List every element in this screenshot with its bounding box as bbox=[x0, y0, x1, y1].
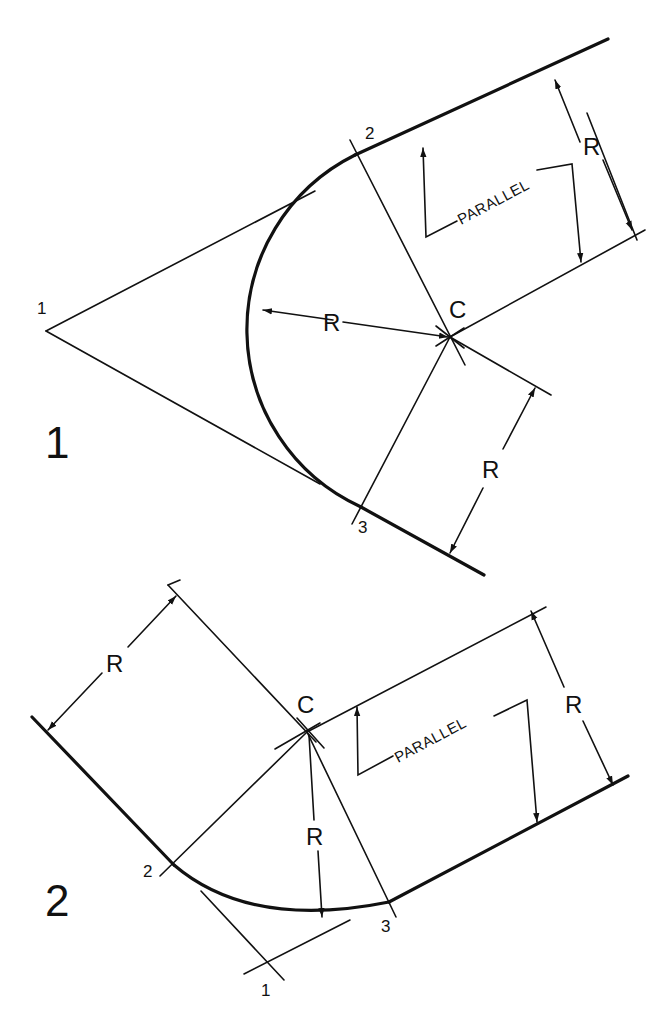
point-label-1: 1 bbox=[261, 981, 270, 1000]
r-dim-arrow-up bbox=[128, 596, 176, 647]
perpendicular-line-2 bbox=[160, 732, 307, 876]
parallel-label: PARALLEL bbox=[454, 176, 532, 228]
point-label-2: 2 bbox=[365, 124, 374, 143]
figure-1: R R PARALLEL R 1 2 3 C 1 bbox=[37, 39, 645, 575]
r-dim-arrow-down bbox=[583, 721, 613, 785]
radius-label: R bbox=[306, 823, 323, 850]
parallel-leader-right bbox=[494, 700, 537, 822]
radius-label: R bbox=[106, 650, 123, 677]
r-dim-arrow-up bbox=[555, 80, 580, 142]
point-label-2: 2 bbox=[143, 862, 152, 881]
right-tangent-line bbox=[389, 776, 628, 902]
figure-number: 2 bbox=[45, 876, 69, 925]
point-label-3: 3 bbox=[358, 518, 367, 537]
lower-angle-line bbox=[46, 331, 320, 484]
radius-arrow-center bbox=[343, 322, 448, 337]
dim-tick bbox=[168, 580, 180, 585]
left-angle-line bbox=[201, 891, 284, 980]
arc-tangent-construction-diagram: R R PARALLEL R 1 2 3 C 1 bbox=[0, 0, 672, 1030]
radius-label: R bbox=[482, 456, 499, 483]
parallel-leader-left bbox=[357, 707, 393, 775]
right-angle-line bbox=[244, 920, 350, 974]
radius-arrow bbox=[318, 851, 322, 917]
radius-label: R bbox=[323, 309, 340, 336]
radius-line bbox=[309, 735, 314, 820]
r-dim-arrow-down bbox=[450, 488, 483, 553]
tangent-arc bbox=[174, 865, 389, 910]
tangent-arc bbox=[247, 155, 361, 507]
parallel-leader-left bbox=[423, 148, 457, 237]
parallel-line-left bbox=[168, 585, 316, 742]
upper-angle-line bbox=[46, 191, 315, 331]
center-label: C bbox=[449, 296, 466, 323]
lower-tangent-line bbox=[361, 507, 484, 575]
center-cross bbox=[436, 326, 464, 348]
center-label: C bbox=[297, 691, 314, 718]
r-dim-arrow-down bbox=[48, 673, 102, 730]
r-dim-arrow-up bbox=[531, 611, 564, 687]
figure-2: R R R PARALLEL 2 3 1 C 2 bbox=[32, 580, 628, 1000]
parallel-line-upper bbox=[450, 230, 645, 337]
parallel-line-lower bbox=[450, 337, 551, 395]
point-label-1: 1 bbox=[37, 299, 46, 318]
radius-label: R bbox=[565, 691, 582, 718]
r-dim-arrow-up bbox=[503, 388, 535, 449]
figure-number: 1 bbox=[45, 418, 69, 467]
point-label-3: 3 bbox=[381, 917, 390, 936]
parallel-leader-right bbox=[537, 164, 581, 262]
left-tangent-line bbox=[32, 717, 174, 865]
r-dim-arrow-down bbox=[603, 160, 632, 230]
parallel-line-right bbox=[307, 607, 546, 732]
perpendicular-line-3 bbox=[352, 337, 450, 524]
radius-label: R bbox=[583, 133, 600, 160]
upper-tangent-line bbox=[355, 39, 608, 155]
parallel-label: PARALLEL bbox=[391, 714, 469, 766]
